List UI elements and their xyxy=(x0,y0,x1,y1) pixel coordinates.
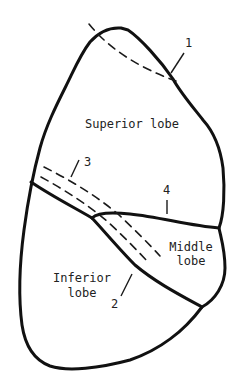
leader-line-3 xyxy=(71,160,79,177)
dashed-line-oblique-upper xyxy=(44,167,160,256)
lung-outline-drawing xyxy=(0,0,251,385)
callout-2: 2 xyxy=(111,297,118,311)
leader-line-2 xyxy=(121,274,132,296)
lung-lobes-diagram: Superior lobe Middle lobe Inferior lobe … xyxy=(0,0,251,385)
lung-outer-outline xyxy=(20,28,225,369)
leader-line-1 xyxy=(171,53,184,73)
middle-lobe-label-line1: Middle xyxy=(166,240,216,254)
inferior-lobe-label-line2: lobe xyxy=(48,286,116,300)
superior-lobe-label: Superior lobe xyxy=(85,117,179,131)
callout-4: 4 xyxy=(163,183,170,197)
callout-3: 3 xyxy=(84,155,91,169)
middle-lobe-label-line2: lobe xyxy=(166,254,216,268)
inferior-lobe-label-line1: Inferior xyxy=(48,271,116,285)
callout-1: 1 xyxy=(185,36,192,50)
oblique-fissure-upper xyxy=(31,182,92,218)
